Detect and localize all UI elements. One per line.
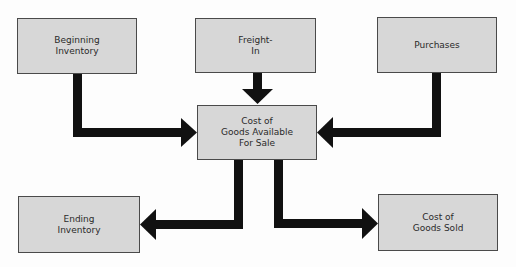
flow-diagram: Beginning Inventory Freight- In Purchase…	[0, 0, 516, 267]
node-ending-inventory: Ending Inventory	[18, 196, 140, 253]
arrow-freight-to-available	[242, 73, 273, 104]
arrow-available-to-sold	[274, 160, 378, 239]
arrow-available-to-ending	[140, 160, 243, 240]
node-cost-of-goods-available: Cost of Goods Available For Sale	[197, 105, 317, 160]
node-purchases: Purchases	[377, 17, 497, 73]
arrow-beginning-to-available	[73, 74, 197, 147]
node-beginning-inventory: Beginning Inventory	[17, 18, 137, 74]
node-cost-of-goods-sold: Cost of Goods Sold	[378, 194, 498, 251]
arrow-purchases-to-available	[317, 73, 441, 148]
node-freight-in: Freight- In	[195, 18, 316, 73]
